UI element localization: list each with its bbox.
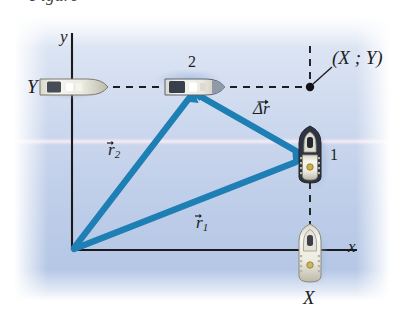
figure-root: Figure [0, 0, 404, 315]
y-axis-label: y [60, 28, 68, 45]
vector-delta-r [190, 90, 303, 156]
boat-2-window-2 [200, 83, 206, 91]
vector-group [74, 88, 305, 249]
vector-label-delta-r-text: Δr [253, 99, 270, 118]
boat-y-window-1 [66, 83, 73, 91]
vector-label-delta-r: Δr [253, 100, 270, 117]
boat-1-hatch [307, 164, 313, 170]
coordinate-point-label: (X ; Y) [332, 48, 383, 67]
boat-1 [299, 126, 321, 183]
boat-1-window [307, 137, 313, 148]
vector-label-r1-text: r [196, 213, 203, 232]
coordinate-point-group [306, 67, 332, 91]
boat-y [40, 79, 108, 95]
y-projection-label: Y [27, 77, 38, 96]
coordinate-point-leader [313, 67, 332, 84]
coordinate-point-dot [306, 83, 314, 91]
boat-2-window-1 [189, 83, 197, 92]
boat-y-window-2 [76, 83, 82, 91]
vector-label-r1: r 1 [196, 214, 208, 233]
boat-1-label: 1 [330, 147, 338, 163]
boat-y-cabin [47, 82, 61, 93]
vector-label-r1-subscript: 1 [203, 221, 209, 233]
x-projection-label: X [303, 288, 315, 307]
boat-x-window [307, 235, 313, 246]
boat-x [299, 224, 321, 282]
vector-label-r2-subscript: 2 [115, 148, 121, 160]
boat-2-label: 2 [188, 54, 196, 70]
vector-label-r2: r 2 [108, 141, 120, 160]
vector-label-r2-text: r [108, 140, 115, 159]
boat-2-cabin [169, 81, 185, 93]
boat-x-hatch [307, 262, 313, 268]
boat-2 [165, 79, 225, 95]
x-axis-label: x [348, 238, 356, 255]
